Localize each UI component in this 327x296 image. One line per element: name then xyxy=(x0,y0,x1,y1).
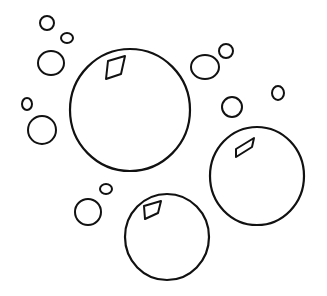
bubble-outline xyxy=(28,116,56,144)
small-bubble-4 xyxy=(22,98,32,110)
bubble-outline xyxy=(70,49,190,171)
small-bubble-2 xyxy=(61,33,73,43)
bubble-outline xyxy=(191,55,219,79)
small-bubble-5 xyxy=(28,116,56,144)
bubble-outline xyxy=(75,199,101,225)
small-bubble-7 xyxy=(219,44,233,58)
large-bubble xyxy=(70,49,190,171)
bubble-outline xyxy=(40,16,54,30)
bottom-bubble xyxy=(125,194,209,280)
highlight-shine-icon xyxy=(106,56,125,79)
small-bubble-10 xyxy=(75,199,101,225)
bubble-outline xyxy=(125,194,209,280)
small-bubble-11 xyxy=(100,184,112,194)
right-bubble xyxy=(210,127,304,225)
bubble-outline xyxy=(210,127,304,225)
bubble-outline xyxy=(222,97,242,117)
bubble-outline xyxy=(219,44,233,58)
bubble-outline xyxy=(22,98,32,110)
small-bubble-8 xyxy=(222,97,242,117)
bubble-outline xyxy=(272,86,284,100)
bubbles-drawing xyxy=(0,0,327,296)
small-bubble-9 xyxy=(272,86,284,100)
small-bubble-1 xyxy=(40,16,54,30)
bubble-outline xyxy=(38,51,64,75)
highlight-shine-icon xyxy=(236,138,254,157)
highlight-shine-icon xyxy=(144,201,161,219)
bubble-outline xyxy=(100,184,112,194)
small-bubble-6 xyxy=(191,55,219,79)
bubble-outline xyxy=(61,33,73,43)
small-bubble-3 xyxy=(38,51,64,75)
bubbles-illustration xyxy=(0,0,327,296)
